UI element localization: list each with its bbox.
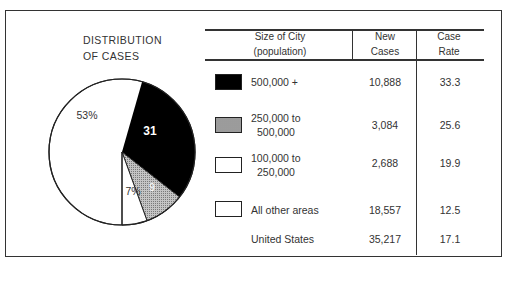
pie-label-large-white: 53%: [76, 109, 97, 121]
new-cases-total: 35,217: [355, 232, 415, 246]
case-rate-value: 25.6: [420, 118, 480, 132]
pie-label-gray: 9: [149, 182, 155, 193]
pie-label-black: 31: [143, 124, 157, 138]
chart-title-line-1: DISTRIBUTION: [83, 32, 162, 48]
case-rate-value: 33.3: [420, 75, 480, 89]
new-cases-value: 2,688: [355, 156, 415, 170]
row-label: All other areas: [251, 203, 319, 217]
header-case-rate: Case Rate: [424, 29, 474, 59]
header-divider-1: [352, 29, 353, 59]
row-label-total: United States: [251, 232, 314, 246]
case-rate-total: 17.1: [420, 232, 480, 246]
legend-swatch-gray: [215, 117, 242, 133]
case-rate-value: 19.9: [420, 156, 480, 170]
legend-swatch-black: [215, 74, 242, 90]
new-cases-value: 3,084: [355, 118, 415, 132]
table-header-rule: [205, 59, 484, 61]
case-rate-value: 12.5: [420, 203, 480, 217]
legend-swatch-white-other: [215, 201, 242, 217]
header-size-of-city: Size of City (population): [230, 29, 330, 59]
chart-title: DISTRIBUTION OF CASES: [83, 32, 162, 64]
header-new-cases: New Cases: [360, 29, 410, 59]
chart-title-line-2: OF CASES: [83, 48, 162, 64]
new-cases-value: 10,888: [355, 75, 415, 89]
new-cases-value: 18,557: [355, 203, 415, 217]
pie-label-small-white: 7%: [125, 185, 140, 197]
row-label: 250,000 to 500,000: [251, 111, 301, 139]
pie-chart: 31 9 7% 53%: [47, 77, 197, 229]
column-divider-2: [416, 29, 417, 255]
row-label: 500,000 +: [251, 75, 298, 89]
legend-swatch-white: [215, 157, 242, 173]
row-label: 100,000 to 250,000: [251, 151, 301, 179]
